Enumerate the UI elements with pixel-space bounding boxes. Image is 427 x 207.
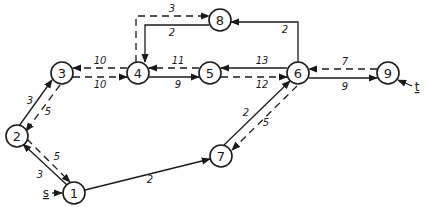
svg-text:10: 10 xyxy=(94,79,107,90)
svg-text:1: 1 xyxy=(70,186,78,201)
svg-text:6: 6 xyxy=(294,66,302,81)
svg-text:3: 3 xyxy=(37,169,43,180)
svg-text:5: 5 xyxy=(45,106,51,117)
svg-text:9: 9 xyxy=(384,66,392,81)
edge-4-5: 9 xyxy=(149,77,199,90)
svg-text:10: 10 xyxy=(94,55,107,66)
node-6: 6 xyxy=(287,62,309,84)
svg-text:7: 7 xyxy=(217,149,225,164)
svg-text:9: 9 xyxy=(175,79,181,90)
edge-6-5: 13 xyxy=(221,55,287,68)
edge-3-4: 10 xyxy=(73,77,127,90)
svg-text:13: 13 xyxy=(256,55,269,66)
node-4: 4 xyxy=(127,62,149,84)
svg-text:2: 2 xyxy=(169,27,175,38)
svg-text:8: 8 xyxy=(216,13,224,28)
edge-7-6: 2 xyxy=(224,81,290,145)
svg-text:9: 9 xyxy=(342,81,348,92)
svg-text:5: 5 xyxy=(54,151,60,162)
svg-text:4: 4 xyxy=(134,66,142,81)
svg-text:2: 2 xyxy=(243,107,249,118)
node-3: 3 xyxy=(51,62,73,84)
node-5: 5 xyxy=(199,62,221,84)
edge-1-2: 3 xyxy=(23,144,67,185)
svg-text:5: 5 xyxy=(263,117,269,128)
svg-text:5: 5 xyxy=(206,66,214,81)
svg-text:11: 11 xyxy=(172,55,185,66)
edge-1-7: 2 xyxy=(85,159,210,190)
edge-4-3: 10 xyxy=(73,55,127,68)
sink-indicator: t xyxy=(398,80,420,94)
svg-text:2: 2 xyxy=(282,24,288,35)
edge-2-1: 5 xyxy=(27,139,70,182)
flow-network-diagram: 3 5 3 5 10 10 11 9 13 12 7 xyxy=(0,0,427,207)
svg-text:3: 3 xyxy=(169,3,175,14)
node-1: 1 xyxy=(63,182,85,204)
svg-text:7: 7 xyxy=(342,56,349,67)
source-indicator: s xyxy=(43,186,62,200)
node-8: 8 xyxy=(209,9,231,31)
node-2: 2 xyxy=(6,125,28,147)
edge-9-6: 7 xyxy=(309,56,377,69)
svg-text:s: s xyxy=(43,186,49,200)
edge-5-6: 12 xyxy=(221,77,287,90)
svg-text:2: 2 xyxy=(147,174,153,185)
edge-6-7: 5 xyxy=(232,86,297,150)
svg-text:3: 3 xyxy=(27,95,33,106)
svg-text:t: t xyxy=(415,80,420,94)
node-9: 9 xyxy=(377,62,399,84)
edge-5-4: 11 xyxy=(149,55,199,68)
edge-6-9: 9 xyxy=(309,78,377,92)
svg-text:3: 3 xyxy=(58,66,66,81)
svg-text:2: 2 xyxy=(13,129,21,144)
svg-text:12: 12 xyxy=(256,79,269,90)
node-7: 7 xyxy=(210,145,232,167)
